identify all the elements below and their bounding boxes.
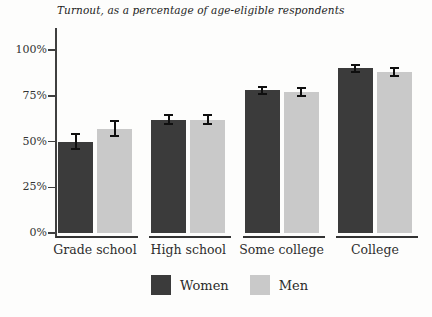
y-axis-tick-label-75: 75% bbox=[6, 89, 47, 103]
bar-men-2 bbox=[284, 92, 319, 233]
error-bar-men-3-cap-top bbox=[390, 67, 399, 69]
chart-title: Turnout, as a percentage of age-eligible… bbox=[57, 4, 345, 16]
error-bar-women-0-cap-bottom bbox=[71, 148, 80, 150]
error-bar-men-0 bbox=[114, 121, 116, 136]
y-axis-tick-label-50: 50% bbox=[6, 135, 47, 149]
y-axis-line bbox=[55, 28, 57, 238]
legend-label-women: Women bbox=[180, 278, 229, 293]
x-axis-segment-1 bbox=[149, 236, 231, 238]
error-bar-women-1-cap-bottom bbox=[164, 123, 173, 125]
legend-item-men: Men bbox=[250, 275, 308, 295]
legend-label-men: Men bbox=[279, 278, 308, 293]
error-bar-women-1-cap-top bbox=[164, 114, 173, 116]
error-bar-women-3-cap-top bbox=[351, 64, 360, 66]
error-bar-men-2-cap-bottom bbox=[297, 95, 306, 97]
error-bar-men-2-cap-top bbox=[297, 87, 306, 89]
y-axis-tick-label-100: 100% bbox=[6, 43, 47, 57]
legend-swatch-women bbox=[151, 275, 171, 295]
error-bar-women-3-cap-bottom bbox=[351, 71, 360, 73]
category-label-2: Some college bbox=[234, 242, 330, 257]
category-label-0: Grade school bbox=[47, 242, 143, 257]
x-axis-segment-0 bbox=[56, 236, 138, 238]
legend-swatch-men bbox=[250, 275, 270, 295]
y-axis-tick-label-0: 0% bbox=[6, 226, 47, 240]
x-axis-segment-2 bbox=[243, 236, 325, 238]
y-axis-tick-25 bbox=[48, 187, 56, 189]
bar-men-0 bbox=[97, 129, 132, 233]
y-axis-tick-100 bbox=[48, 49, 56, 51]
error-bar-women-0-cap-top bbox=[71, 133, 80, 135]
error-bar-men-0-cap-bottom bbox=[110, 135, 119, 137]
bar-men-1 bbox=[190, 120, 225, 233]
error-bar-women-2-cap-top bbox=[258, 86, 267, 88]
category-label-3: College bbox=[327, 242, 423, 257]
legend-item-women: Women bbox=[151, 275, 229, 295]
y-axis-tick-0 bbox=[48, 232, 56, 234]
error-bar-men-0-cap-top bbox=[110, 120, 119, 122]
y-axis-tick-50 bbox=[48, 141, 56, 143]
error-bar-men-1-cap-top bbox=[203, 114, 212, 116]
y-axis-tick-label-25: 25% bbox=[6, 180, 47, 194]
error-bar-men-3-cap-bottom bbox=[390, 75, 399, 77]
bar-women-3 bbox=[338, 68, 373, 233]
error-bar-men-1-cap-bottom bbox=[203, 123, 212, 125]
chart-canvas: Turnout, as a percentage of age-eligible… bbox=[0, 0, 432, 317]
error-bar-women-2-cap-bottom bbox=[258, 93, 267, 95]
bar-men-3 bbox=[377, 72, 412, 233]
bar-women-1 bbox=[151, 120, 186, 233]
category-label-1: High school bbox=[140, 242, 236, 257]
error-bar-women-0 bbox=[75, 134, 77, 149]
y-axis-tick-75 bbox=[48, 95, 56, 97]
legend: WomenMen bbox=[151, 275, 308, 295]
x-axis-segment-3 bbox=[336, 236, 418, 238]
bar-women-2 bbox=[245, 90, 280, 233]
bar-women-0 bbox=[58, 142, 93, 234]
